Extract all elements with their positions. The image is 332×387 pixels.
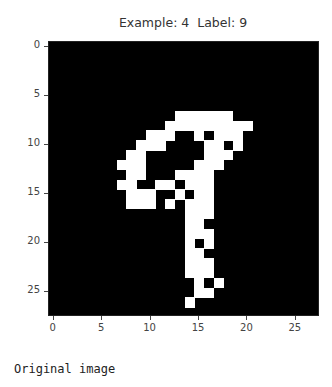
pixel-white (185, 219, 195, 229)
y-tick (44, 144, 48, 145)
y-tick-label: 0 (18, 39, 40, 50)
pixel-white (204, 140, 214, 150)
pixel-white (146, 199, 156, 209)
pixel-white (185, 238, 195, 248)
y-tick (44, 46, 48, 47)
pixel-white (194, 219, 204, 229)
pixel-white (185, 199, 195, 209)
pixel-white (185, 170, 195, 180)
pixel-white (165, 121, 175, 131)
y-tick-label: 15 (18, 186, 40, 197)
pixel-white (175, 189, 185, 199)
pixel-white (146, 130, 156, 140)
pixel-white (204, 189, 214, 199)
pixel-white (175, 111, 185, 121)
pixel-white (146, 189, 156, 199)
pixel-white (194, 209, 204, 219)
pixel-white (136, 140, 146, 150)
pixel-white (214, 140, 224, 150)
pixel-white (126, 189, 136, 199)
pixel-white (194, 130, 204, 140)
x-tick-label: 5 (89, 322, 113, 333)
pixel-white (194, 229, 204, 239)
pixel-white (185, 297, 195, 307)
pixel-white (155, 140, 165, 150)
pixel-white (117, 180, 127, 190)
pixel-white (214, 121, 224, 131)
pixel-white (185, 111, 195, 121)
pixel-white (185, 268, 195, 278)
pixel-white (194, 199, 204, 209)
x-tick-label: 20 (234, 322, 258, 333)
pixel-white (155, 130, 165, 140)
pixel-white (223, 130, 233, 140)
pixel-white (194, 278, 204, 288)
pixel-white (146, 140, 156, 150)
pixel-white (233, 130, 243, 140)
pixel-white (223, 121, 233, 131)
pixel-white (194, 268, 204, 278)
pixel-white (214, 278, 224, 288)
image-axes (48, 41, 319, 316)
pixel-white (126, 170, 136, 180)
x-tick-label: 15 (186, 322, 210, 333)
pixel-white (126, 150, 136, 160)
output-caption: Original image (14, 362, 115, 376)
pixel-white (204, 229, 214, 239)
x-tick (150, 316, 151, 320)
pixel-white (204, 209, 214, 219)
pixel-white (185, 209, 195, 219)
x-tick-label: 25 (283, 322, 307, 333)
pixel-white (185, 180, 195, 190)
x-tick (101, 316, 102, 320)
pixel-white (185, 248, 195, 258)
digit-image (49, 42, 318, 315)
pixel-white (136, 150, 146, 160)
pixel-white (165, 180, 175, 190)
x-tick (295, 316, 296, 320)
pixel-white (126, 199, 136, 209)
pixel-white (233, 121, 243, 131)
pixel-white (204, 150, 214, 160)
pixel-white (204, 199, 214, 209)
pixel-white (136, 189, 146, 199)
y-tick (44, 95, 48, 96)
pixel-white (194, 160, 204, 170)
y-tick-label: 5 (18, 88, 40, 99)
pixel-white (194, 121, 204, 131)
pixel-white (136, 170, 146, 180)
pixel-white (185, 229, 195, 239)
x-tick (53, 316, 54, 320)
pixel-white (194, 111, 204, 121)
pixel-white (204, 258, 214, 268)
pixel-white (126, 160, 136, 170)
pixel-white (233, 140, 243, 150)
pixel-white (204, 160, 214, 170)
y-tick (44, 193, 48, 194)
pixel-white (204, 238, 214, 248)
pixel-white (243, 121, 253, 131)
pixel-white (136, 199, 146, 209)
pixel-white (204, 170, 214, 180)
pixel-white (194, 248, 204, 258)
x-tick-label: 10 (138, 322, 162, 333)
pixel-white (204, 180, 214, 190)
y-tick (44, 291, 48, 292)
x-tick (246, 316, 247, 320)
pixel-white (175, 170, 185, 180)
pixel-white (223, 111, 233, 121)
pixel-white (165, 199, 175, 209)
pixel-white (223, 150, 233, 160)
y-tick (44, 242, 48, 243)
y-tick-label: 10 (18, 137, 40, 148)
pixel-white (126, 180, 136, 190)
pixel-white (194, 189, 204, 199)
pixel-white (155, 180, 165, 190)
pixel-white (194, 288, 204, 298)
pixel-white (136, 160, 146, 170)
pixel-white (194, 170, 204, 180)
pixel-white (214, 130, 224, 140)
pixel-white (214, 160, 224, 170)
pixel-white (214, 111, 224, 121)
pixel-white (185, 258, 195, 268)
